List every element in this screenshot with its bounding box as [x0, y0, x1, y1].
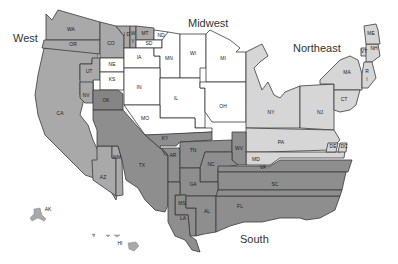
state-mi[interactable]: [206, 30, 246, 82]
state-in[interactable]: [124, 68, 160, 105]
label-ri: R: [365, 68, 369, 74]
label-tx: TX: [139, 162, 146, 168]
state-oh[interactable]: [200, 82, 246, 122]
label-la: LA: [180, 215, 187, 221]
label-dc: DC: [340, 143, 348, 149]
label-me: ME: [367, 30, 375, 36]
label-az: AZ: [100, 174, 106, 180]
label-wi: WI: [190, 50, 196, 56]
state-wy[interactable]: [130, 26, 136, 48]
state-ri[interactable]: [362, 62, 376, 88]
label-i: I: [366, 76, 367, 82]
label-nc: NC: [207, 161, 215, 167]
label-de: DE: [330, 143, 338, 149]
label-ks: KS: [109, 76, 116, 82]
label-nm: NM: [113, 154, 121, 160]
region-label-midwest: Midwest: [188, 17, 228, 29]
label-ms: MS: [178, 200, 186, 206]
label-or: OR: [69, 41, 77, 47]
label-co: CO: [107, 40, 115, 46]
state-wa[interactable]: [46, 10, 100, 40]
state-fl[interactable]: [216, 196, 340, 232]
state-sc[interactable]: [218, 172, 346, 190]
label-va: VA: [260, 164, 267, 170]
label-md: MD: [252, 156, 260, 162]
label-ky: KY: [162, 135, 169, 141]
us-regions-map: WA OR CA NV UT CO I D W Y MT ND SD NE KS…: [0, 0, 398, 264]
label-wv: WV: [235, 145, 244, 151]
label-nj: NJ: [317, 109, 324, 115]
label-hi: HI: [118, 240, 123, 246]
label-pa: PA: [278, 139, 285, 145]
label-vt: VT: [361, 48, 367, 54]
label-ne: NE: [109, 61, 117, 67]
label-nd: ND: [157, 32, 165, 38]
label-wy: W: [131, 30, 136, 36]
label-wa: WA: [67, 26, 76, 32]
label-sc: SC: [272, 181, 279, 187]
state-pa[interactable]: [246, 128, 340, 152]
state-nj[interactable]: [300, 84, 334, 130]
label-nh: NH: [370, 45, 378, 51]
label-ny: NY: [268, 109, 276, 115]
label-sd: SD: [146, 40, 153, 46]
state-ny[interactable]: [246, 44, 300, 128]
label-ga: GA: [189, 181, 197, 187]
label-tn: TN: [190, 147, 197, 153]
state-hi[interactable]: [92, 234, 139, 251]
label-mo: MO: [141, 115, 149, 121]
region-label-west: West: [13, 32, 38, 44]
state-ak[interactable]: [30, 208, 46, 221]
label-ok: OK: [102, 97, 110, 103]
label-id: I D: [124, 31, 131, 37]
label-ut: UT: [86, 68, 93, 74]
label-mi: MI: [220, 55, 226, 61]
label-oh: OH: [219, 103, 227, 109]
label-mn: MN: [165, 55, 173, 61]
region-label-south: South: [240, 233, 269, 245]
label-ia: IA: [137, 54, 142, 60]
label-il: IL: [174, 95, 178, 101]
region-label-northeast: Northeast: [293, 42, 341, 54]
label-ma: MA: [343, 69, 351, 75]
label-al: AL: [204, 208, 210, 214]
label-ak: AK: [45, 206, 52, 212]
label-fl: FL: [237, 203, 243, 209]
label-ca: CA: [57, 110, 65, 116]
label-ct: CT: [341, 96, 348, 102]
state-sc-strip: [216, 190, 342, 196]
label-mt: MT: [141, 30, 148, 36]
label-nv: NV: [83, 92, 91, 98]
label-ar: AR: [170, 152, 177, 158]
label-in: IN: [137, 84, 142, 90]
